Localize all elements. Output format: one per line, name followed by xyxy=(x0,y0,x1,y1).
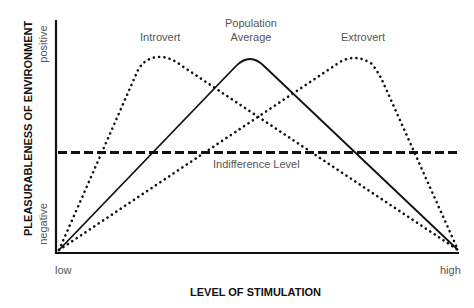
x-tick-low: low xyxy=(55,264,72,276)
y-tick-positive: positive xyxy=(37,24,49,64)
extrovert-label: Extrovert xyxy=(341,31,385,43)
x-tick-high: high xyxy=(440,264,461,276)
introvert-label: Introvert xyxy=(140,31,180,43)
y-tick-negative: negative xyxy=(37,199,49,249)
population-average-label: Population Average xyxy=(218,16,284,44)
population-label-line2: Average xyxy=(218,30,284,44)
chart-plot xyxy=(0,0,474,308)
y-axis-title: PLEASURABLENESS OF ENVIRONMENT xyxy=(22,36,34,236)
population-average-curve xyxy=(59,59,458,250)
x-axis-title: LEVEL OF STIMULATION xyxy=(190,286,321,298)
indifference-level-label: Indifference Level xyxy=(213,158,300,170)
population-label-line1: Population xyxy=(218,16,284,30)
